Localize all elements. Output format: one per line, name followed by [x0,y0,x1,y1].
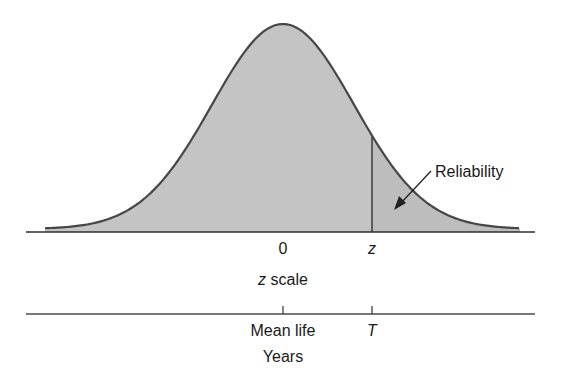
reliability-normal-diagram: Reliability 0 z z scale Mean life T Year… [0,0,564,377]
curve-area [45,24,520,232]
z-axis-title-italic: z [257,271,266,288]
years-axis-title: Years [263,348,303,365]
z-tick-zero: 0 [279,240,288,257]
reliability-label: Reliability [435,163,503,180]
z-tick-z: z [367,240,376,257]
years-tick-T-label: T [367,322,378,339]
years-tick-mean-label: Mean life [251,322,316,339]
z-axis-title: z scale [257,271,308,288]
z-axis-title-rest: scale [266,271,308,288]
reliability-tail-area [372,135,520,232]
